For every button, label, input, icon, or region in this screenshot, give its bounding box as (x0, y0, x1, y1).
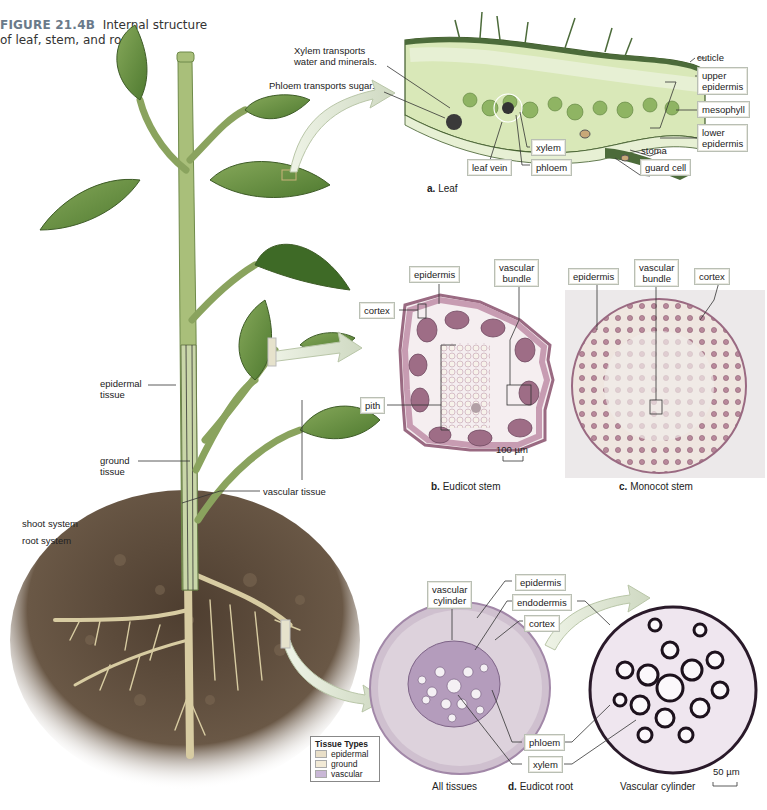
shoot-system-label: shoot system (22, 518, 78, 529)
legend-swatch-ground (315, 760, 327, 768)
phloem-transports-label: Phloem transports sugar. (269, 80, 375, 91)
phloem-label: phloem (531, 159, 572, 176)
eudicot-vascular-bundle-label: vascular bundle (494, 259, 539, 287)
root-system-label: root system (22, 535, 71, 546)
xylem-transports-label: Xylem transports water and minerals. (294, 45, 377, 67)
cuticle-label: cuticle (697, 52, 724, 63)
pith-label: pith (360, 397, 385, 414)
leaf-caption: a. Leaf (427, 183, 458, 194)
leaf-vein-label: leaf vein (467, 159, 512, 176)
ground-tissue-label: ground tissue (100, 455, 130, 477)
vascular-cylinder-label: vascular cylinder (427, 581, 472, 609)
lower-epidermis-label: lower epidermis (697, 124, 748, 152)
leaf (117, 25, 147, 100)
root-vascular-cylinder (590, 607, 756, 773)
root-cortex-label: cortex (524, 615, 560, 632)
eudicot-root-caption: d. Eudicot root (508, 781, 573, 792)
legend-item: vascular (315, 769, 375, 779)
monocot-epidermis-label: epidermis (568, 268, 619, 285)
vascular-tissue-label: vascular tissue (263, 486, 326, 497)
eudicot-scale-bar: 100 µm (496, 444, 528, 455)
leaf-arrow (290, 80, 395, 172)
leaf (40, 179, 140, 230)
root-all-tissues (370, 602, 550, 774)
epidermal-tissue-label: epidermal tissue (100, 378, 142, 400)
eudicot-stem-caption: b. Eudicot stem (431, 481, 500, 492)
root-phloem-label: phloem (524, 734, 565, 751)
root-epidermis-label: epidermis (515, 574, 566, 591)
endodermis-label: endodermis (512, 594, 572, 611)
monocot-stem-caption: c. Monocot stem (619, 481, 693, 492)
leaf (255, 244, 350, 290)
eudicot-stem-section (400, 295, 553, 450)
legend-item: epidermal (315, 749, 375, 759)
tissue-types-legend: Tissue Types epidermal ground vascular (310, 736, 380, 782)
leaf (245, 95, 310, 119)
monocot-vascular-bundle-label: vascular bundle (634, 259, 679, 287)
upper-epidermis-label: upper epidermis (697, 67, 748, 95)
legend-title: Tissue Types (315, 739, 375, 749)
eudicot-cortex-label: cortex (359, 302, 395, 319)
leaf (239, 300, 272, 380)
stoma-label: stoma (641, 145, 667, 156)
legend-swatch-epidermal (315, 750, 327, 758)
legend-item: ground (315, 759, 375, 769)
mesophyll-label: mesophyll (697, 101, 750, 118)
root-scale-bar: 50 µm (713, 766, 740, 777)
all-tissues-caption: All tissues (432, 781, 477, 792)
monocot-cortex-label: cortex (694, 268, 730, 285)
xylem-label: xylem (531, 139, 566, 156)
guard-cell-label: guard cell (640, 159, 691, 176)
root-xylem-label: xylem (528, 756, 563, 773)
eudicot-epidermis-label: epidermis (409, 266, 460, 283)
leaf (210, 161, 330, 197)
vascular-cylinder-caption: Vascular cylinder (620, 781, 695, 792)
legend-swatch-vascular (315, 770, 327, 778)
